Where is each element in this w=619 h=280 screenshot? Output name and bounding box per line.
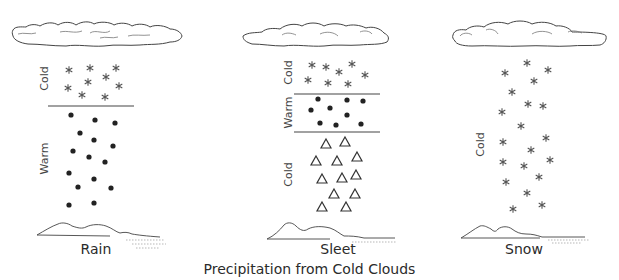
panel-label-snow: Snow xyxy=(484,241,564,257)
figure-caption: Precipitation from Cold Clouds xyxy=(0,261,619,277)
layer-label-rain-cold: Cold xyxy=(38,49,51,109)
ground-sleet xyxy=(267,223,395,239)
layer-label-sleet-cold-bottom: Cold xyxy=(282,145,295,205)
ground-rain xyxy=(37,223,160,237)
layer-label-sleet-warm: Warm xyxy=(282,83,295,143)
sleet-panel xyxy=(243,23,396,242)
diagram-canvas xyxy=(0,0,619,280)
cloud-snow xyxy=(453,21,607,46)
cloud-sleet xyxy=(243,23,388,46)
panel-label-rain: Rain xyxy=(56,241,136,257)
ground-snow xyxy=(461,226,585,238)
cloud-rain xyxy=(12,22,182,46)
layer-label-snow-cold: Cold xyxy=(474,115,487,175)
layer-label-rain-warm: Warm xyxy=(38,129,51,189)
panel-label-sleet: Sleet xyxy=(298,241,378,257)
precipitation-diagram: Cold Warm Cold Warm Cold Cold Rain Sleet… xyxy=(0,0,619,280)
